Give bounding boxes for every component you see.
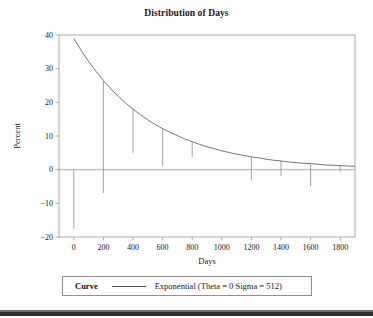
y-axis-tick-label: 40 (45, 31, 53, 40)
x-axis-tick-label: 800 (186, 243, 198, 252)
chart-canvas: 020040060080010001200140016001800−20−100… (0, 0, 373, 318)
x-axis-tick-label: 1400 (273, 243, 289, 252)
y-axis-tick-label: 10 (45, 132, 53, 141)
y-axis-tick-label: −20 (40, 233, 53, 242)
y-axis-tick-label: 20 (45, 98, 53, 107)
x-axis-tick-label: 1000 (214, 243, 230, 252)
y-axis-tick-label: 30 (45, 64, 53, 73)
y-axis-title: Percent (12, 123, 22, 149)
x-axis-title: Days (198, 256, 215, 266)
legend-entry-label: Exponential (Theta = 0 Sigma = 512) (155, 281, 282, 291)
x-axis-tick-label: 400 (127, 243, 139, 252)
chart-page: Distribution of Days 0200400600800100012… (0, 0, 373, 318)
legend-line-swatch (112, 286, 146, 287)
x-axis-tick-label: 200 (97, 243, 109, 252)
x-axis-tick-label: 1200 (243, 243, 259, 252)
legend-title: Curve (75, 281, 98, 291)
x-axis-tick-label: 1600 (303, 243, 319, 252)
x-axis-tick-label: 600 (157, 243, 169, 252)
x-axis-tick-label: 1800 (332, 243, 348, 252)
y-axis-tick-label: −10 (40, 199, 53, 208)
legend: Curve Exponential (Theta = 0 Sigma = 512… (62, 276, 312, 296)
window-bottom-bar (0, 312, 373, 316)
y-axis-tick-label: 0 (49, 165, 53, 174)
exponential-curve (74, 38, 355, 166)
x-axis-tick-label: 0 (72, 243, 76, 252)
